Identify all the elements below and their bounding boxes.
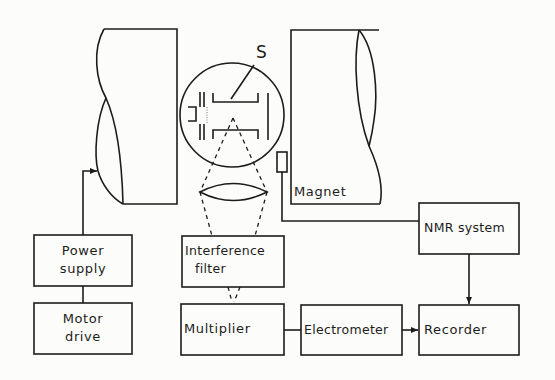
power-to-magnet-arrow [83,171,97,235]
sample-label: S [256,43,267,61]
motor-drive-line1: Motor [34,310,132,328]
recorder-label: Recorder [424,321,487,339]
right-magnet-pole [291,30,381,204]
interference-filter-line1: Interference [185,242,265,260]
electrometer-label: Electrometer [304,321,389,339]
power-supply-label: Power supply [34,242,132,278]
power-supply-line2: supply [34,260,132,278]
nmr-system-label: NMR system [424,219,505,237]
magnet-label: Magnet [294,183,346,201]
lens [200,184,267,201]
motor-drive-label: Motor drive [34,310,132,346]
multiplier-label: Multiplier [184,320,251,338]
sample-cell [180,63,284,167]
apparatus-diagram: S Magnet Power supply Motor drive Interf… [0,0,555,380]
interference-filter-label: Interference filter [185,242,265,278]
left-magnet-pole [96,29,177,204]
nmr-probe [277,152,287,172]
motor-drive-line2: drive [34,328,132,346]
interference-filter-line2: filter [185,260,265,278]
power-supply-line1: Power [34,242,132,260]
